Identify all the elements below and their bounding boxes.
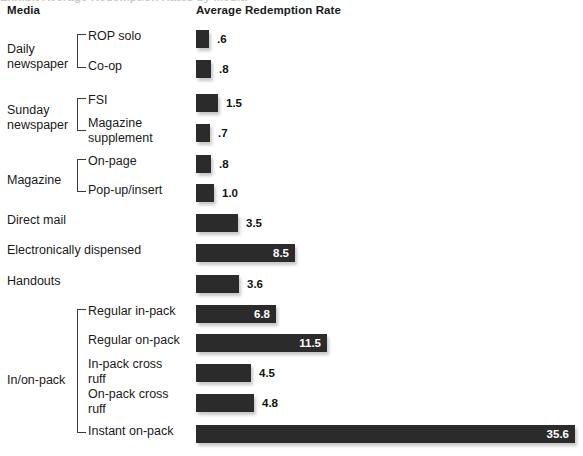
- bar-value-magazine-supplement: .7: [218, 124, 228, 142]
- bar-in-pack-cross-ruff: [196, 364, 251, 382]
- bar-on-pack-cross-ruff: [196, 394, 254, 412]
- row-label-fsi: FSI: [88, 93, 192, 108]
- row-label-regular-on-pack: Regular on-pack: [88, 333, 192, 348]
- row-label-rop-solo: ROP solo: [88, 29, 192, 44]
- row-label-co-op: Co-op: [88, 59, 192, 74]
- bar-handouts: [196, 275, 239, 293]
- group-label-daily-newspaper: Daily newspaper: [7, 42, 79, 71]
- bar-direct-mail: [196, 214, 238, 232]
- row-label-electronically-dispensed: Electronically dispensed: [7, 243, 192, 258]
- bar-value-regular-on-pack: 11.5: [293, 334, 321, 352]
- bar-magazine-supplement: [196, 124, 210, 142]
- bar-instant-on-pack: [196, 425, 575, 443]
- row-label-instant-on-pack: Instant on-pack: [88, 424, 192, 439]
- bar-value-regular-in-pack: 6.8: [242, 305, 270, 323]
- bar-value-direct-mail: 3.5: [246, 214, 262, 232]
- row-label-on-pack-cross-ruff: On-pack cross ruff: [88, 387, 192, 416]
- bar-pop-up-insert: [196, 184, 214, 202]
- bar-value-in-pack-cross-ruff: 4.5: [259, 364, 275, 382]
- bar-value-rop-solo: .6: [217, 30, 227, 48]
- bar-value-electronically-dispensed: 8.5: [261, 244, 289, 262]
- bar-value-instant-on-pack: 35.6: [541, 425, 569, 443]
- row-label-regular-in-pack: Regular in-pack: [88, 304, 192, 319]
- bar-rop-solo: [196, 30, 209, 48]
- bar-value-on-page: .8: [219, 155, 229, 173]
- row-label-pop-up-insert: Pop-up/insert: [88, 183, 192, 198]
- group-bracket-in-on-pack: [77, 309, 86, 433]
- bar-value-co-op: .8: [219, 60, 229, 78]
- bar-fsi: [196, 94, 218, 112]
- row-label-on-page: On-page: [88, 154, 192, 169]
- coupon-redemption-bar-chart: Exhibit Average Redemption Rates by Medi…: [0, 0, 583, 456]
- group-label-in-on-pack: In/on-pack: [7, 373, 79, 388]
- row-label-magazine-supplement: Magazine supplement: [88, 116, 192, 145]
- row-label-handouts: Handouts: [7, 274, 192, 289]
- bar-value-fsi: 1.5: [226, 94, 242, 112]
- bar-value-pop-up-insert: 1.0: [222, 184, 238, 202]
- group-label-magazine: Magazine: [7, 173, 79, 188]
- plot-area: Daily newspaperSunday newspaperMagazineI…: [0, 0, 583, 456]
- bar-co-op: [196, 60, 211, 78]
- group-label-sunday-newspaper: Sunday newspaper: [7, 103, 79, 132]
- row-label-direct-mail: Direct mail: [7, 213, 192, 228]
- bar-value-on-pack-cross-ruff: 4.8: [262, 394, 278, 412]
- bar-value-handouts: 3.6: [247, 275, 263, 293]
- row-label-in-pack-cross-ruff: In-pack cross ruff: [88, 357, 192, 386]
- bar-on-page: [196, 155, 211, 173]
